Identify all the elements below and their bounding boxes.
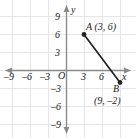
origin-label: O bbox=[58, 71, 65, 81]
x-axis-label: x bbox=[122, 72, 126, 82]
y-axis-bottom-arrow bbox=[64, 127, 70, 134]
y-tick-neg-3: –3 bbox=[51, 84, 61, 94]
x-tick-pos-6: 6 bbox=[99, 72, 104, 82]
y-axis-label: y bbox=[71, 5, 75, 15]
y-tick-neg-6: –6 bbox=[51, 102, 61, 112]
coordinate-plane-figure: –9 –6 –3 3 6 O 9 6 3 –3 –6 –9 x y A (3, … bbox=[0, 0, 136, 138]
x-tick-neg-6: –6 bbox=[22, 72, 32, 82]
point-b-coords: (9, –2) bbox=[94, 96, 121, 106]
point-b-label: B bbox=[113, 84, 119, 94]
y-tick-neg-9: –9 bbox=[51, 120, 61, 130]
x-tick-neg-9: –9 bbox=[4, 72, 14, 82]
x-tick-neg-3: –3 bbox=[40, 72, 50, 82]
x-tick-pos-3: 3 bbox=[81, 72, 86, 82]
y-tick-pos-9: 9 bbox=[55, 12, 60, 22]
point-a-label: A (3, 6) bbox=[86, 22, 116, 32]
y-tick-pos-6: 6 bbox=[55, 30, 60, 40]
y-axis-top-arrow bbox=[64, 5, 70, 12]
y-tick-pos-3: 3 bbox=[55, 48, 60, 58]
point-a-marker bbox=[82, 32, 87, 37]
